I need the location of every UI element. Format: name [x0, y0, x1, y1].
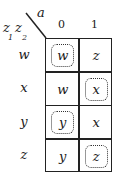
row-header-y: y [14, 114, 34, 129]
cell-value: x [93, 115, 100, 130]
row-variable-z2: z [15, 21, 22, 34]
row-header-x: x [14, 80, 34, 95]
dotted-group-ring [85, 78, 108, 101]
cell-value: y [59, 149, 66, 164]
row-header-w: w [14, 47, 34, 62]
column-header-1: 1 [78, 18, 111, 31]
row-variable-z1-subscript: 1 [8, 33, 13, 42]
cell-r1-c1: x [80, 73, 114, 107]
cell-r0-c0: w [46, 39, 80, 73]
dotted-group-ring [85, 145, 108, 168]
dotted-group-ring [51, 111, 74, 134]
cell-r0-c1: z [80, 39, 114, 73]
column-header-0: 0 [45, 18, 78, 31]
kmap-grid: w z w x y x y z [45, 38, 112, 172]
dotted-group-ring [51, 44, 74, 67]
cell-r2-c1: x [80, 106, 114, 140]
cell-r3-c1: z [80, 140, 114, 174]
row-header-z: z [14, 147, 34, 162]
row-variable-z2-subscript: 2 [22, 33, 27, 42]
cell-r1-c0: w [46, 73, 80, 107]
cell-value: w [57, 82, 68, 97]
cell-r3-c0: y [46, 140, 80, 174]
cell-value: z [93, 48, 100, 63]
column-variable-label: a [37, 6, 45, 19]
cell-r2-c0: y [46, 106, 80, 140]
